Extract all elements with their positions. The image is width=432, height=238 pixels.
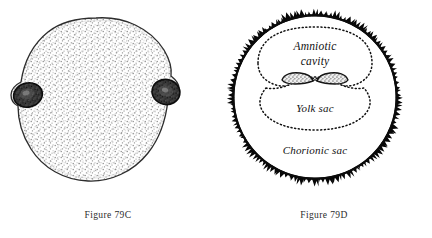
figure-panel-79c: Figure 79C (0, 0, 216, 238)
figure-caption-79c: Figure 79C (0, 210, 216, 220)
label-amniotic-cavity-line2: cavity (301, 55, 330, 68)
label-chorionic-sac: Chorionic sac (283, 144, 348, 156)
figure-caption-79d: Figure 79D (216, 210, 432, 220)
label-amniotic-cavity-line1: Amniotic (292, 40, 336, 52)
label-yolk-sac: Yolk sac (296, 102, 334, 114)
figure-79d-illustration: Amniotic cavity Yolk sac Chorionic sac (216, 0, 432, 205)
figure-plate: Figure 79C (0, 0, 432, 238)
figure-panel-79d: Amniotic cavity Yolk sac Chorionic sac F… (216, 0, 432, 238)
figure-79c-illustration (0, 0, 216, 205)
